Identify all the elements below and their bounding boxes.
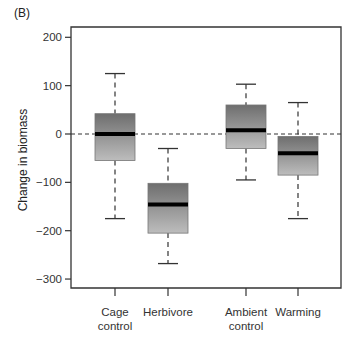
y-axis-label: Change in biomass — [16, 109, 30, 212]
x-category-label: Herbivore — [143, 306, 193, 318]
x-category-label: control — [98, 320, 133, 332]
y-tick-label: −200 — [36, 225, 62, 237]
x-axis: CagecontrolHerbivoreAmbientcontrolWarmin… — [98, 288, 321, 332]
y-axis: 2001000−100−200−300 — [36, 31, 71, 285]
y-tick-label: 100 — [43, 80, 62, 92]
y-tick-label: 0 — [56, 128, 62, 140]
box-plot: 2001000−100−200−300 CagecontrolHerbivore… — [0, 0, 358, 342]
y-tick-label: −100 — [36, 176, 62, 188]
box-herbivore — [148, 149, 188, 264]
x-category-label: control — [229, 320, 264, 332]
box-cage-control — [95, 74, 135, 219]
x-category-label: Ambient — [225, 306, 268, 318]
boxes — [95, 74, 318, 264]
x-category-label: Warming — [275, 306, 321, 318]
box-ambient-control — [226, 84, 266, 180]
box-warming — [278, 103, 318, 219]
y-tick-label: −300 — [36, 273, 62, 285]
y-tick-label: 200 — [43, 31, 62, 43]
x-category-label: Cage — [101, 306, 129, 318]
